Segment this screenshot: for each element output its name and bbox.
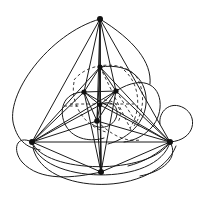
graph-vertex-outer-bottom <box>98 169 104 175</box>
graph-vertex-inner-right <box>113 88 118 93</box>
graph-diagram <box>0 0 201 208</box>
figure-container <box>0 0 201 208</box>
graph-vertex-inner-center <box>98 103 102 107</box>
graph-vertex-apex <box>97 16 103 22</box>
graph-vertex-outer-left <box>29 139 35 145</box>
graph-vertex-outer-right <box>167 139 173 145</box>
graph-vertex-inner-top <box>97 64 102 69</box>
graph-vertex-inner-bottom <box>94 118 100 124</box>
graph-vertex-inner-left <box>81 89 86 94</box>
